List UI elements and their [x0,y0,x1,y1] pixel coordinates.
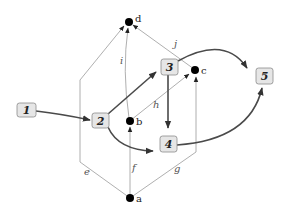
node-label-c: c [201,65,207,76]
flow-boxes: 1 2 3 4 5 [17,59,273,152]
edge-i [125,28,129,118]
edge-h [131,74,189,120]
graph-nodes: a b c d [125,13,207,204]
edge-label-j: j [172,38,177,49]
box-label-3: 3 [166,61,174,74]
flow-arrow-1-2 [36,111,90,120]
node-c[interactable]: c [191,65,207,76]
box-label-2: 2 [96,115,105,128]
diagram-canvas: e f g h i j a b c [0,0,285,211]
edge-label-e: e [84,166,90,177]
node-label-a: a [136,193,142,204]
box-label-5: 5 [261,70,269,83]
box-label-4: 4 [165,138,173,151]
box-3[interactable]: 3 [161,59,178,75]
node-a[interactable]: a [126,193,142,204]
edge-label-i: i [120,55,123,66]
flow-arrow-2-4 [108,127,153,151]
box-1[interactable]: 1 [17,103,36,117]
node-d[interactable]: d [125,13,142,26]
edge-label-h: h [153,99,159,110]
node-label-d: d [135,13,142,24]
node-label-b: b [136,116,142,127]
box-5[interactable]: 5 [256,68,273,84]
flow-arrows [36,50,262,151]
box-label-1: 1 [23,104,31,117]
box-2[interactable]: 2 [92,113,109,128]
box-4[interactable]: 4 [160,136,177,152]
flow-arrow-4-5 [177,88,262,145]
edge-label-g: g [174,163,180,174]
edge-label-f: f [131,162,138,173]
flow-arrow-2-3 [108,72,156,114]
